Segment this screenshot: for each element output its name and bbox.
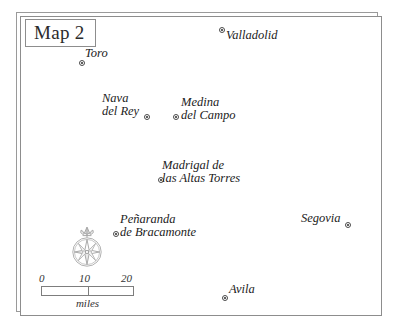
compass-rose-icon <box>66 226 108 270</box>
map-figure: Map 2 ValladolidToroNavadel ReyMedinadel… <box>0 0 395 329</box>
city-label-line: las Altas Torres <box>162 172 240 185</box>
city-label: Valladolid <box>226 29 277 42</box>
city-label: Peñarandade Bracamonte <box>120 213 196 238</box>
city-label-line: Madrigal de <box>162 159 240 172</box>
city-label-line: Segovia <box>301 212 341 225</box>
map-title-box: Map 2 <box>25 19 96 47</box>
city-label: Segovia <box>301 212 341 225</box>
city-marker-icon <box>345 222 351 228</box>
city-label-line: de Bracamonte <box>120 226 196 239</box>
city-label-line: del Campo <box>181 109 236 122</box>
city-label-line: Medina <box>181 96 236 109</box>
city-marker-icon <box>79 60 85 66</box>
city-marker-icon <box>173 114 179 120</box>
scale-bar: 0 10 20 miles <box>41 272 134 309</box>
scale-tick-10: 10 <box>79 272 90 284</box>
city-marker-icon <box>222 295 228 301</box>
city-label-line: del Rey <box>102 105 139 118</box>
city-label-line: Peñaranda <box>120 213 196 226</box>
scale-tick-0: 0 <box>39 272 45 284</box>
city-label: Madrigal delas Altas Torres <box>162 159 240 184</box>
city-label: Avila <box>229 283 255 296</box>
scale-tick-20: 20 <box>121 272 132 284</box>
scale-bar-midtick <box>88 287 89 295</box>
scale-tick-labels: 0 10 20 <box>41 272 134 286</box>
city-label-line: Avila <box>229 283 255 296</box>
city-label: Toro <box>85 47 108 60</box>
city-label-line: Nava <box>102 92 139 105</box>
city-marker-icon <box>219 27 225 33</box>
city-marker-icon <box>144 114 150 120</box>
city-label: Navadel Rey <box>102 92 139 117</box>
city-label: Medinadel Campo <box>181 96 236 121</box>
city-label-line: Valladolid <box>226 29 277 42</box>
city-label-line: Toro <box>85 47 108 60</box>
page-title: Map 2 <box>34 22 85 43</box>
scale-bar-track <box>41 286 134 296</box>
city-marker-icon <box>113 231 119 237</box>
scale-unit-label: miles <box>41 297 134 309</box>
